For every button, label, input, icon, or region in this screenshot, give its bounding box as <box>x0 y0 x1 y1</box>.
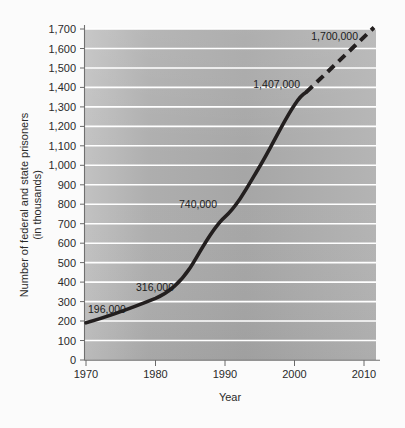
y-tick-label: 1,600 <box>48 43 76 55</box>
y-tick-label: 400 <box>58 276 76 288</box>
x-tick-label: 1990 <box>213 368 237 380</box>
prisoner-population-line-chart: 1,700 1,600 1,500 1,400 1,300 1,200 1,10… <box>0 0 405 428</box>
x-axis-title: Year <box>219 391 242 403</box>
annotation-1407000: 1,407,000 <box>253 78 300 90</box>
y-tick-label: 600 <box>58 237 76 249</box>
y-tick-label: 700 <box>58 218 76 230</box>
annotation-316000: 316,000 <box>136 281 174 293</box>
y-tick-label: 100 <box>58 335 76 347</box>
y-tick-label: 0 <box>70 354 76 366</box>
y-axis-ticks <box>80 29 84 360</box>
annotation-196000: 196,000 <box>88 303 126 315</box>
x-axis-ticks <box>86 360 364 366</box>
y-tick-label: 1,700 <box>48 23 76 35</box>
x-tick-label: 1980 <box>143 368 167 380</box>
y-axis-title-line2: (in thousands) <box>31 170 43 240</box>
y-tick-label: 1,100 <box>48 140 76 152</box>
y-tick-label: 1,500 <box>48 62 76 74</box>
chart-figure: 1,700 1,600 1,500 1,400 1,300 1,200 1,10… <box>0 0 405 428</box>
y-tick-label: 800 <box>58 198 76 210</box>
y-tick-label: 1,200 <box>48 120 76 132</box>
annotation-740000: 740,000 <box>179 198 217 210</box>
x-tick-label: 2010 <box>352 368 376 380</box>
y-tick-label: 1,300 <box>48 101 76 113</box>
y-tick-label: 1,400 <box>48 81 76 93</box>
x-axis-tick-labels: 1970 1980 1990 2000 2010 <box>74 368 376 380</box>
y-axis-title-line1: Number of federal and state prisoners <box>18 112 30 297</box>
y-tick-label: 300 <box>58 296 76 308</box>
y-axis-tick-labels: 1,700 1,600 1,500 1,400 1,300 1,200 1,10… <box>48 23 76 366</box>
y-tick-label: 500 <box>58 257 76 269</box>
x-tick-label: 2000 <box>282 368 306 380</box>
y-tick-label: 1,000 <box>48 159 76 171</box>
y-tick-label: 200 <box>58 315 76 327</box>
annotation-1700000: 1,700,000 <box>311 30 358 42</box>
x-tick-label: 1970 <box>74 368 98 380</box>
y-tick-label: 900 <box>58 179 76 191</box>
